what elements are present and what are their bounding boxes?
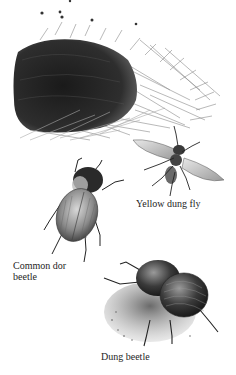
dung-beetle-drawing [104,260,218,346]
label-common-dor-line1: Common dor [13,260,66,271]
dung-pat [14,39,138,132]
illustration-canvas: Yellow dung fly Common dor beetle Dung b… [0,0,236,375]
yellow-dung-fly-drawing [133,126,224,196]
label-dung-beetle: Dung beetle [101,351,150,362]
illustration-art [0,0,236,375]
common-dor-beetle-drawing [44,158,124,262]
label-common-dor-line2: beetle [13,271,66,282]
label-yellow-dung-fly: Yellow dung fly [136,198,201,209]
label-common-dor-beetle: Common dor beetle [13,260,66,282]
flying-insects [40,0,137,25]
